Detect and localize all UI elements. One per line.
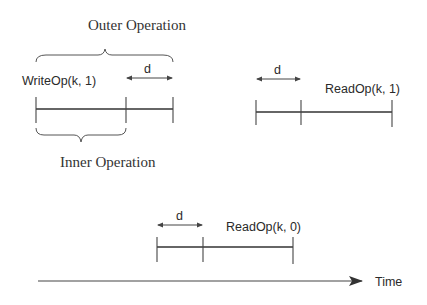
time-axis-label: Time xyxy=(375,275,402,289)
read-op-0-delay-label: d xyxy=(176,209,183,223)
inner-operation-label: Inner Operation xyxy=(60,154,156,170)
write-op-delay-label: d xyxy=(144,62,151,76)
read-op-0-label: ReadOp(k, 0) xyxy=(226,220,301,234)
read-op-0-interval: d ReadOp(k, 0) xyxy=(157,209,301,264)
read-op-1-delay-label: d xyxy=(274,63,281,77)
timing-diagram: Outer Operation WriteOp(k, 1) d Inner Op… xyxy=(0,0,427,305)
write-op-label: WriteOp(k, 1) xyxy=(22,74,96,88)
inner-operation-brace xyxy=(36,128,126,142)
outer-operation-label: Outer Operation xyxy=(88,17,186,33)
read-op-1-interval: d ReadOp(k, 1) xyxy=(256,63,400,127)
read-op-1-label: ReadOp(k, 1) xyxy=(325,82,400,96)
write-op-interval: WriteOp(k, 1) d xyxy=(22,62,173,123)
outer-operation-brace xyxy=(36,49,173,62)
